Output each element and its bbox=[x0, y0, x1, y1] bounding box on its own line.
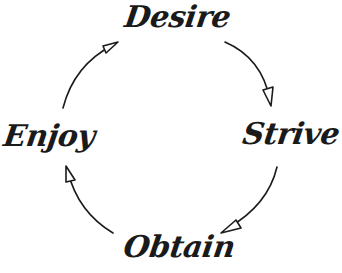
arrow-obtain-to-enjoy bbox=[66, 166, 113, 233]
arrow-strive-to-obtain bbox=[221, 167, 277, 233]
arrow-enjoy-to-desire bbox=[63, 42, 118, 108]
node-obtain: Obtain bbox=[122, 232, 237, 262]
arrow-desire-to-strive bbox=[225, 42, 273, 106]
node-desire: Desire bbox=[123, 2, 232, 32]
node-strive: Strive bbox=[241, 119, 341, 149]
node-enjoy: Enjoy bbox=[2, 121, 97, 151]
